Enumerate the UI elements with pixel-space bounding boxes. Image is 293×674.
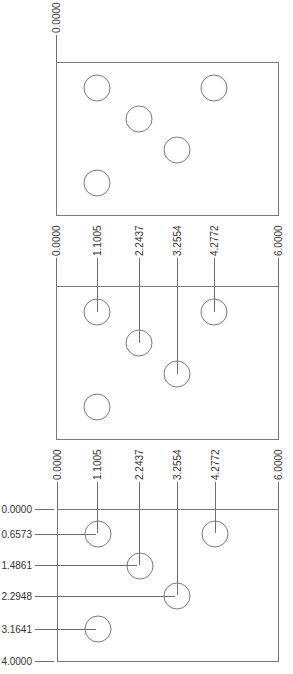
y-label-3: 2.2948 [1,591,32,602]
x-label-4: 4.2772 [209,225,220,256]
y-label-0: 0.0000 [1,504,32,515]
y-label-1: 0.6573 [1,529,32,540]
ordinate-dimension-drawing: 0.0000 0.0000 1.1005 2.2437 3.2554 4.277… [0,0,293,674]
hole-1 [84,75,110,101]
x-label-5: 6.0000 [273,225,284,256]
plate-outline [58,510,279,662]
plate-outline [57,63,279,216]
x-label-1: 1.1005 [92,449,103,480]
y-label-5: 4.0000 [1,656,32,667]
panel-step-3: 0.0000 1.1005 2.2437 3.2554 4.2772 6.000… [1,449,284,667]
x-label-1: 1.1005 [92,225,103,256]
x-label-0: 0.0000 [52,449,63,480]
x-label-2: 2.2437 [134,225,145,256]
panel-step-1: 0.0000 [51,2,279,216]
hole-2 [201,75,227,101]
y-label-2: 1.4861 [1,560,32,571]
x-label-4: 4.2772 [210,449,221,480]
x-label-3: 3.2554 [172,449,183,480]
hole-5 [84,170,110,196]
hole-3 [126,106,152,132]
x-label-3: 3.2554 [172,225,183,256]
x-label-0: 0.0000 [51,225,62,256]
x-label-2: 2.2437 [134,449,145,480]
x-label-5: 6.0000 [273,449,284,480]
x-datum-label: 0.0000 [51,2,62,33]
panel-step-2: 0.0000 1.1005 2.2437 3.2554 4.2772 6.000… [51,225,284,440]
y-label-4: 3.1641 [1,624,32,635]
plate-outline [57,287,279,440]
hole-5 [84,394,110,420]
hole-4 [164,137,190,163]
